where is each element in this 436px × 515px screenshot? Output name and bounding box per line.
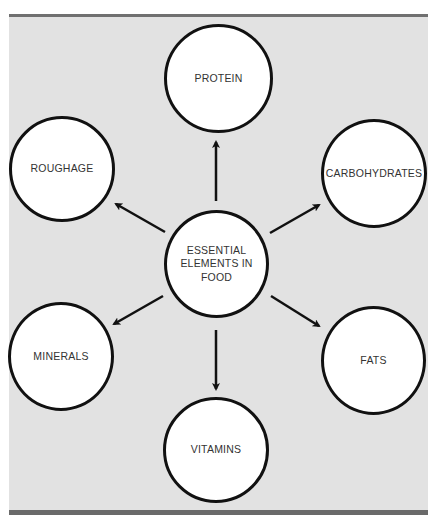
arrow-to-minerals xyxy=(114,296,163,324)
node-center: ESSENTIAL ELEMENTS IN FOOD xyxy=(164,210,269,318)
arrow-to-roughage xyxy=(116,204,165,232)
node-label: CARBOHYDRATES xyxy=(326,167,422,180)
node-label: ROUGHAGE xyxy=(31,162,94,175)
node-roughage: ROUGHAGE xyxy=(9,116,115,222)
node-label: VITAMINS xyxy=(191,443,241,456)
node-label: MINERALS xyxy=(33,350,88,363)
node-vitamins: VITAMINS xyxy=(163,397,269,503)
node-minerals: MINERALS xyxy=(8,302,114,411)
node-fats: FATS xyxy=(321,306,426,415)
arrow-to-fats xyxy=(271,296,319,326)
node-label: PROTEIN xyxy=(194,72,242,85)
arrow-to-carbohydrates xyxy=(270,205,319,233)
center-label: ESSENTIAL ELEMENTS IN FOOD xyxy=(180,244,252,283)
node-carbohydrates: CARBOHYDRATES xyxy=(321,119,427,228)
node-label: FATS xyxy=(360,354,386,367)
node-protein: PROTEIN xyxy=(164,24,273,133)
